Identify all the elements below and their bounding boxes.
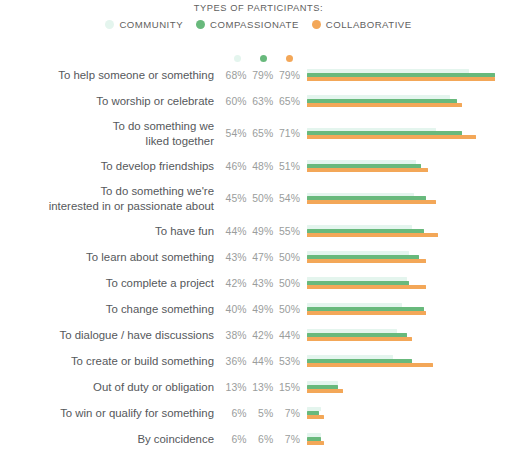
chart-row: Out of duty or obligation13%13%15%: [0, 374, 517, 400]
legend-dot-community: [105, 20, 114, 29]
bar-compassionate: [307, 255, 419, 259]
legend-item-community[interactable]: COMMUNITY: [105, 19, 183, 30]
value-community: 6%: [220, 434, 247, 445]
value-community: 43%: [220, 252, 247, 263]
legend-label-compassionate: COMPASSIONATE: [210, 19, 299, 30]
value-community: 46%: [220, 161, 247, 172]
column-dot-collaborative: [286, 55, 293, 62]
value-compassionate: 5%: [247, 408, 274, 419]
row-values: 6%6%7%: [214, 434, 300, 445]
chart-row: To complete a project42%43%50%: [0, 270, 517, 296]
row-bars: [300, 328, 517, 342]
column-dot-compassionate: [260, 55, 267, 62]
row-bars: [300, 250, 517, 264]
value-collaborative: 44%: [273, 330, 300, 341]
bar-collaborative: [307, 259, 426, 263]
row-bars: [300, 302, 517, 316]
legend-item-collaborative[interactable]: COLLABORATIVE: [312, 19, 412, 30]
value-compassionate: 42%: [247, 330, 274, 341]
value-community: 6%: [220, 408, 247, 419]
row-values: 68%79%79%: [214, 70, 300, 81]
chart-row: To do something we're interested in or p…: [0, 179, 517, 218]
row-bars: [300, 159, 517, 173]
value-collaborative: 50%: [273, 278, 300, 289]
value-collaborative: 50%: [273, 252, 300, 263]
row-values: 44%49%55%: [214, 226, 300, 237]
value-compassionate: 13%: [247, 382, 274, 393]
value-collaborative: 15%: [273, 382, 300, 393]
bar-compassionate: [307, 411, 319, 415]
value-collaborative: 55%: [273, 226, 300, 237]
value-compassionate: 63%: [247, 96, 274, 107]
bar-compassionate: [307, 229, 424, 233]
value-compassionate: 44%: [247, 356, 274, 367]
row-category-label: To worship or celebrate: [0, 94, 214, 109]
bar-collaborative: [307, 441, 324, 445]
row-category-label: To change something: [0, 302, 214, 317]
column-dot-community: [234, 55, 241, 62]
row-bars: [300, 192, 517, 206]
value-collaborative: 7%: [273, 408, 300, 419]
row-category-label: To dialogue / have discussions: [0, 328, 214, 343]
chart-header: TYPES OF PARTICIPANTS: COMMUNITY COMPASS…: [0, 0, 517, 30]
chart-row: To develop friendships46%48%51%: [0, 153, 517, 179]
bar-compassionate: [307, 99, 457, 103]
row-values: 42%43%50%: [214, 278, 300, 289]
bar-collaborative: [307, 389, 343, 393]
chart-row: To do something we liked together54%65%7…: [0, 114, 517, 153]
bar-collaborative: [307, 233, 438, 237]
row-category-label: To develop friendships: [0, 159, 214, 174]
value-collaborative: 7%: [273, 434, 300, 445]
chart-row: To create or build something36%44%53%: [0, 348, 517, 374]
row-bars: [300, 354, 517, 368]
chart-legend: COMMUNITY COMPASSIONATE COLLABORATIVE: [0, 19, 517, 30]
row-category-label: To do something we liked together: [0, 119, 214, 148]
bar-collaborative: [307, 337, 412, 341]
value-compassionate: 79%: [247, 70, 274, 81]
value-collaborative: 54%: [273, 193, 300, 204]
chart-row: To learn about something43%47%50%: [0, 244, 517, 270]
bar-collaborative: [307, 135, 476, 139]
bar-compassionate: [307, 281, 409, 285]
row-category-label: To help someone or something: [0, 68, 214, 83]
value-collaborative: 53%: [273, 356, 300, 367]
value-collaborative: 65%: [273, 96, 300, 107]
value-compassionate: 48%: [247, 161, 274, 172]
bar-collaborative: [307, 168, 428, 172]
row-category-label: To complete a project: [0, 276, 214, 291]
legend-label-collaborative: COLLABORATIVE: [326, 19, 412, 30]
chart-row: To help someone or something68%79%79%: [0, 62, 517, 88]
row-values: 13%13%15%: [214, 382, 300, 393]
legend-dot-collaborative: [312, 20, 321, 29]
bar-collaborative: [307, 415, 324, 419]
row-values: 45%50%54%: [214, 193, 300, 204]
row-bars: [300, 276, 517, 290]
value-compassionate: 43%: [247, 278, 274, 289]
row-values: 43%47%50%: [214, 252, 300, 263]
row-bars: [300, 406, 517, 420]
value-community: 68%: [220, 70, 247, 81]
row-values: 46%48%51%: [214, 161, 300, 172]
value-compassionate: 50%: [247, 193, 274, 204]
value-community: 60%: [220, 96, 247, 107]
chart-row: To have fun44%49%55%: [0, 218, 517, 244]
bar-collaborative: [307, 200, 436, 204]
bar-compassionate: [307, 307, 424, 311]
row-bars: [300, 224, 517, 238]
bar-collaborative: [307, 285, 426, 289]
value-collaborative: 79%: [273, 70, 300, 81]
chart-plot-area: To help someone or something68%79%79%To …: [0, 62, 517, 450]
legend-item-compassionate[interactable]: COMPASSIONATE: [196, 19, 299, 30]
value-community: 44%: [220, 226, 247, 237]
chart-row: To worship or celebrate60%63%65%: [0, 88, 517, 114]
value-community: 54%: [220, 128, 247, 139]
row-bars: [300, 432, 517, 446]
row-values: 54%65%71%: [214, 128, 300, 139]
row-values: 38%42%44%: [214, 330, 300, 341]
bar-collaborative: [307, 77, 495, 81]
chart-row: By coincidence6%6%7%: [0, 426, 517, 450]
value-compassionate: 65%: [247, 128, 274, 139]
value-community: 42%: [220, 278, 247, 289]
bar-compassionate: [307, 164, 421, 168]
chart-row: To change something40%49%50%: [0, 296, 517, 322]
